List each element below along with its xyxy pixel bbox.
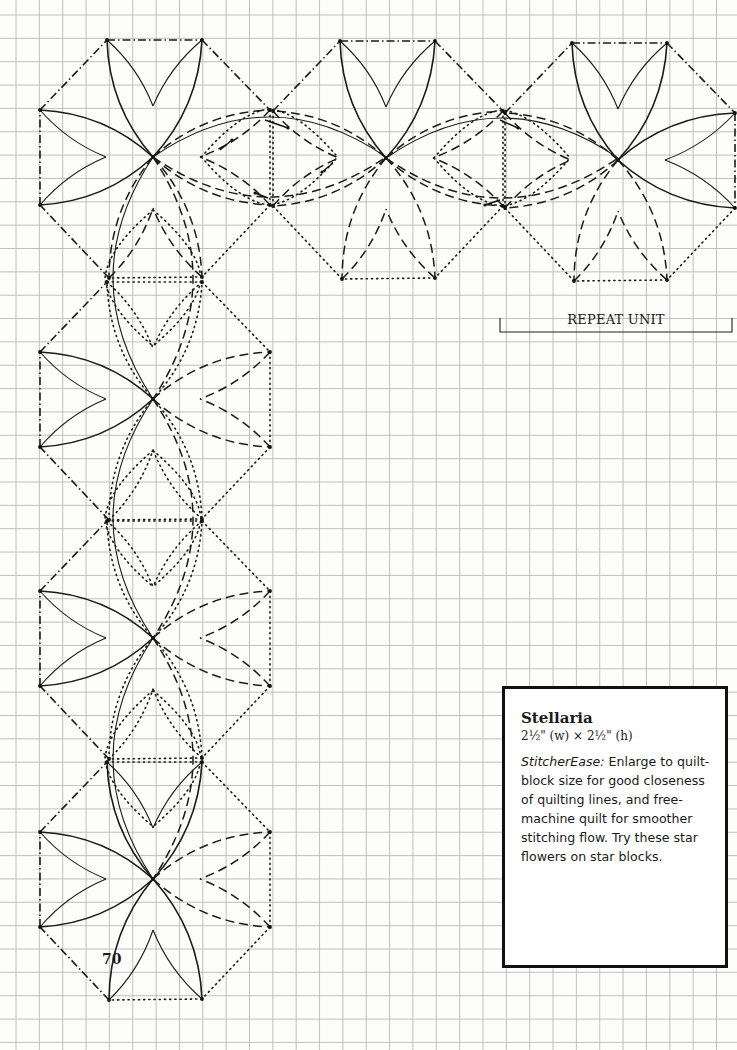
- stellaria-motif: [503, 41, 737, 283]
- pattern-description: StitcherEase: Enlarge to quilt-block siz…: [521, 752, 711, 866]
- quilting-pattern-page: REPEAT UNIT 70 Stellaria 2½" (w) × 2½" (…: [0, 0, 737, 1050]
- stitcherease-label: StitcherEase:: [521, 754, 604, 769]
- pattern-info-box: Stellaria 2½" (w) × 2½" (h) StitcherEase…: [502, 686, 728, 968]
- pattern-dimensions: 2½" (w) × 2½" (h): [521, 729, 711, 743]
- repeat-unit-label: REPEAT UNIT: [500, 312, 732, 327]
- pattern-title: Stellaria: [521, 709, 711, 727]
- stitch-direction-arrows: [220, 120, 520, 207]
- page-number: 70: [102, 951, 121, 967]
- stitcherease-text: Enlarge to quilt-block size for good clo…: [521, 754, 709, 864]
- stellaria-motif: [38, 760, 272, 1002]
